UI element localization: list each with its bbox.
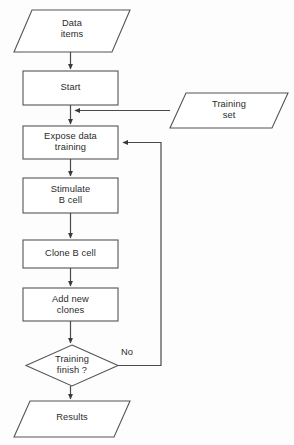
- edge-decision-no-feedback: [118, 143, 161, 366]
- node-clone-b-cell: [23, 240, 118, 268]
- node-start: [23, 71, 118, 105]
- node-results: [14, 401, 130, 437]
- edge-label-no: No: [121, 347, 133, 357]
- node-expose-data-training: [23, 126, 118, 159]
- flowchart-svg: [0, 0, 294, 445]
- node-data-items: [14, 10, 130, 52]
- node-add-new-clones: [23, 288, 118, 321]
- node-training-finish: [26, 345, 118, 386]
- node-training-set: [170, 93, 288, 128]
- node-stimulate-b-cell: [23, 178, 118, 213]
- flowchart-canvas: Data items Start Training set Expose dat…: [0, 0, 294, 445]
